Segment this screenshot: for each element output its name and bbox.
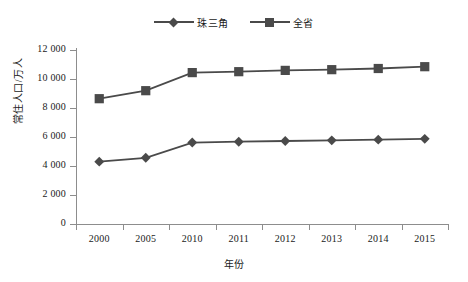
- square-data-point: [95, 94, 104, 103]
- diamond-data-point: [420, 134, 430, 144]
- series-layer: [0, 0, 468, 282]
- square-data-point: [141, 86, 150, 95]
- square-data-point: [374, 64, 383, 73]
- diamond-data-point: [327, 135, 337, 145]
- diamond-data-point: [234, 137, 244, 147]
- diamond-data-point: [141, 153, 151, 163]
- square-data-point: [327, 65, 336, 74]
- square-data-point: [281, 66, 290, 75]
- line-chart: 珠三角 全省 常住人口/万人 年份 02 0004 0006 0008 0001…: [0, 0, 468, 282]
- square-data-point: [188, 68, 197, 77]
- square-data-point: [420, 62, 429, 71]
- square-data-point: [234, 67, 243, 76]
- diamond-data-point: [373, 135, 383, 145]
- diamond-data-point: [94, 157, 104, 167]
- diamond-data-point: [280, 136, 290, 146]
- diamond-data-point: [187, 138, 197, 148]
